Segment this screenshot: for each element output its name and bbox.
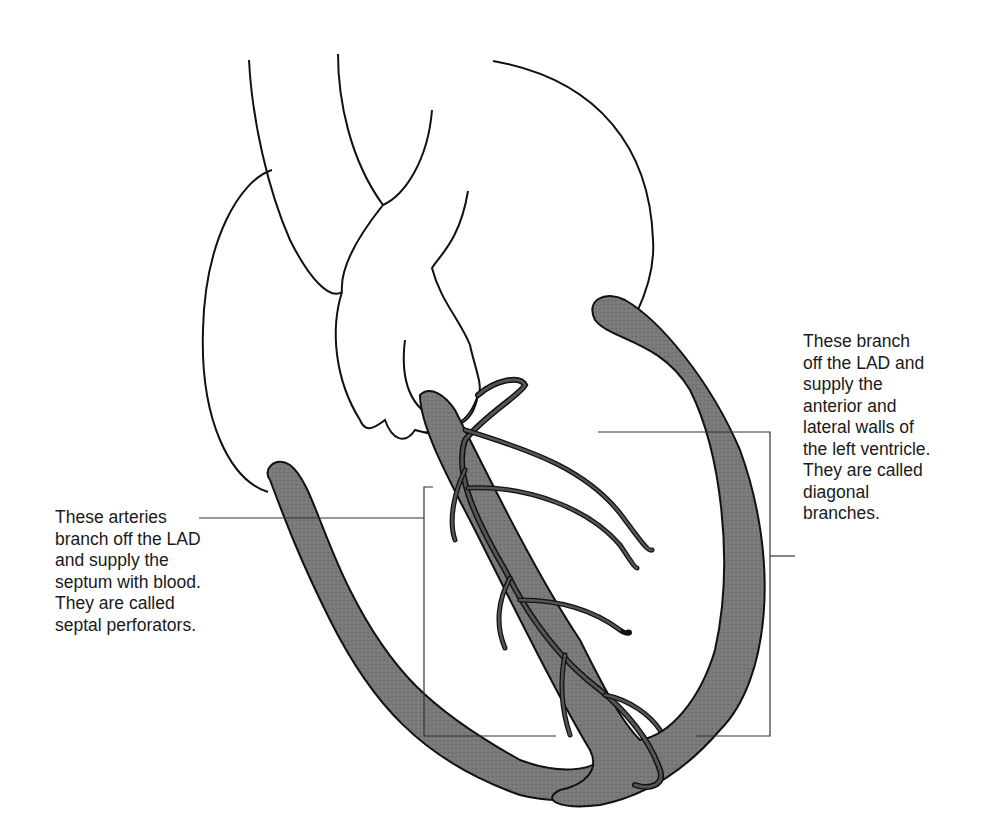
label-line: the left ventricle. [803, 439, 930, 461]
label-line: These branch [803, 331, 930, 353]
label-line: and supply the [55, 550, 201, 572]
label-line: supply the [803, 374, 930, 396]
label-line: branch off the LAD [55, 529, 201, 551]
label-line: branches. [803, 503, 930, 525]
label-line: off the LAD and [803, 353, 930, 375]
diagonal-branches-label: These branch off the LAD and supply the … [803, 331, 930, 525]
septal-perforators-label: These arteries branch off the LAD and su… [55, 507, 201, 636]
right-atrium [203, 170, 272, 492]
label-line: lateral walls of [803, 417, 930, 439]
label-line: These arteries [55, 507, 201, 529]
label-line: diagonal [803, 482, 930, 504]
label-line: They are called [55, 593, 201, 615]
aortic-root [336, 268, 480, 439]
label-line: septal perforators. [55, 615, 201, 637]
label-line: septum with blood. [55, 572, 201, 594]
label-line: anterior and [803, 396, 930, 418]
label-line: They are called [803, 460, 930, 482]
lad-artery [452, 380, 661, 787]
